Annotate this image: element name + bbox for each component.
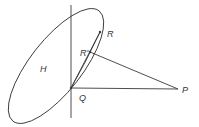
ellipse-h	[0, 0, 120, 127]
label-p: P	[182, 85, 188, 95]
point-q	[70, 87, 72, 89]
line-rprime-p	[90, 52, 178, 89]
line-q-p	[71, 88, 178, 89]
label-q: Q	[79, 93, 86, 103]
chord-q-r	[71, 32, 100, 88]
point-r	[99, 31, 101, 33]
label-h: H	[40, 64, 47, 74]
point-rprime	[89, 51, 91, 53]
geometry-diagram: H R R' Q P	[0, 0, 199, 127]
label-r: R	[107, 29, 114, 39]
label-rprime: R'	[80, 48, 88, 58]
